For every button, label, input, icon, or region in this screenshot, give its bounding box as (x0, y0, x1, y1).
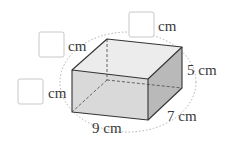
blank-box-lower-left[interactable] (18, 79, 43, 104)
depth-label: 7 cm (167, 108, 197, 124)
height-label: 5 cm (187, 62, 217, 78)
unit-label-upper-left: cm (68, 38, 87, 54)
unit-label-lower-left: cm (48, 85, 67, 101)
width-label: 9 cm (92, 120, 122, 136)
cuboid-diagram: cm cm cm 5 cm 7 cm 9 cm (0, 0, 233, 142)
blank-box-top[interactable] (129, 12, 154, 37)
unit-label-top: cm (158, 18, 177, 34)
blank-box-upper-left[interactable] (39, 32, 64, 57)
